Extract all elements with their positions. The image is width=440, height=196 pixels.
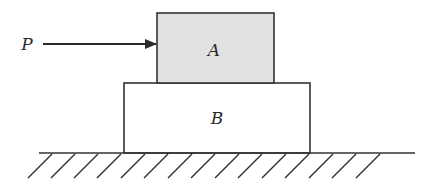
block-a-label: A — [206, 40, 220, 60]
block-b-label: B — [210, 108, 224, 128]
ground-surface — [28, 153, 415, 178]
block-a: A — [157, 13, 274, 83]
block-b: B — [124, 83, 310, 153]
two-block-friction-diagram: B A P — [0, 0, 440, 196]
force-label: P — [20, 34, 33, 54]
force-p: P — [20, 34, 156, 54]
ground-hatch-icon — [28, 154, 380, 178]
